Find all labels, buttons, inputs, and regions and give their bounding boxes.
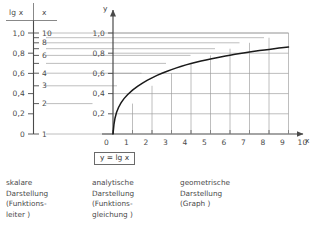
graph-y-tick-0-4: 0,4 <box>83 90 105 98</box>
y-axis-ticks <box>108 33 113 114</box>
graph-axes <box>102 10 303 134</box>
graph-x-tick-6: 6 <box>222 139 227 147</box>
ladder-lg-label-0-8: 0,8 <box>5 50 25 58</box>
ladder-header-lg-label: lg x <box>9 9 23 17</box>
ladder-lg-label-0: 0 <box>5 131 25 139</box>
graph-x-tick-8: 8 <box>261 139 266 147</box>
graph-x-tick-3: 3 <box>163 139 168 147</box>
graph-x-tick-9: 9 <box>280 139 285 147</box>
ordinate-drop-lines <box>133 33 289 134</box>
ladder-lg-label-0-6: 0,6 <box>5 70 25 78</box>
graph-y-tick-0-2: 0,2 <box>83 110 105 118</box>
ladder-lg-label-1-0: 1,0 <box>5 30 25 38</box>
graph-x-tick-2: 2 <box>144 139 149 147</box>
figure-root: lg x x 1,0 0,8 0,6 0,4 0,2 0 10 8 6 4 3 … <box>0 0 316 233</box>
ladder-lg-label-0-4: 0,4 <box>5 90 25 98</box>
ladder-x-label-6: 6 <box>42 52 47 60</box>
ladder-lg-label-0-2: 0,2 <box>5 110 25 118</box>
ladder-lg-ticks <box>28 33 34 134</box>
ladder-x-label-4: 4 <box>42 70 47 78</box>
graph-y-tick-0-8: 0,8 <box>83 50 105 58</box>
ladder-x-ticks <box>34 33 40 134</box>
graph-x-tick-4: 4 <box>183 139 188 147</box>
ladder-x-label-3: 3 <box>42 82 47 90</box>
ladder-x-label-2: 2 <box>42 100 47 108</box>
graph-x-tick-5: 5 <box>202 139 207 147</box>
ladder-x-label-8: 8 <box>42 39 47 47</box>
graph-x-tick-10: 10 <box>298 139 308 147</box>
ladder-x-label-10: 10 <box>42 30 52 38</box>
projection-lines <box>46 33 289 134</box>
graph-y-tick-0-6: 0,6 <box>83 70 105 78</box>
log-curve <box>113 47 289 134</box>
graph-x-tick-1: 1 <box>124 139 129 147</box>
equation-box: y = lg x <box>94 152 135 165</box>
graph-y-tick-1-0: 1,0 <box>83 30 105 38</box>
caption-geometric: geometrische Darstellung (Graph ) <box>180 178 270 210</box>
ladder-header-x-label: x <box>42 9 47 17</box>
caption-scalar: skalare Darstellung (Funktions- leiter ) <box>6 178 84 220</box>
graph-origin-label: 0 <box>104 139 109 147</box>
caption-analytic: analytische Darstellung (Funktions- glei… <box>92 178 172 220</box>
ladder-x-label-1: 1 <box>42 131 47 139</box>
graph-x-tick-7: 7 <box>241 139 246 147</box>
y-gridlines <box>113 33 289 114</box>
y-axis-label: y <box>103 5 108 13</box>
